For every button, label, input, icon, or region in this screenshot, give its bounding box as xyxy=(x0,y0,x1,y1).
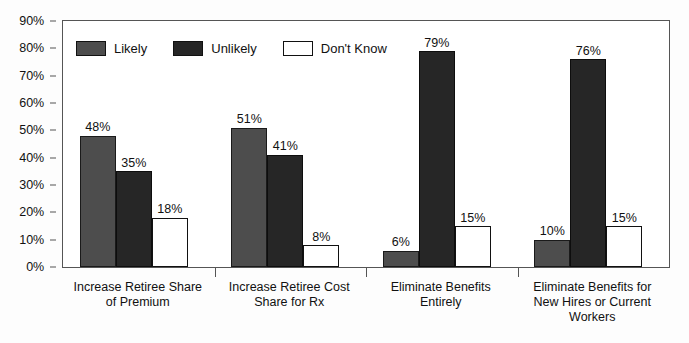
x-axis-category-label-line: Workers xyxy=(517,310,669,325)
y-axis-tick-label: 90% xyxy=(19,15,44,28)
x-axis-category-label: Eliminate BenefitsEntirely xyxy=(365,280,517,310)
y-axis-tick-mark xyxy=(50,103,56,104)
y-axis-tick-mark xyxy=(50,130,56,131)
legend-item-unlikely: Unlikely xyxy=(173,41,257,56)
bar: 48% xyxy=(80,136,116,267)
bar-value-label: 51% xyxy=(237,113,262,126)
y-axis: 0%10%20%30%40%50%60%70%80%90% xyxy=(0,20,56,268)
bar-value-label: 15% xyxy=(612,212,637,225)
x-axis-category-label-line: Eliminate Benefits for xyxy=(517,280,669,295)
legend-swatch-icon xyxy=(76,41,106,56)
bar: 41% xyxy=(267,155,303,267)
bars-layer: 48%35%18%51%41%8%6%79%15%10%76%15% xyxy=(63,21,669,267)
bar: 79% xyxy=(419,51,455,267)
y-axis-tick-label: 10% xyxy=(19,233,44,246)
x-axis-category-label-line: Entirely xyxy=(365,295,517,310)
y-axis-tick-mark xyxy=(50,75,56,76)
y-axis-tick-label: 40% xyxy=(19,151,44,164)
y-axis-tick-label: 30% xyxy=(19,179,44,192)
legend-swatch-icon xyxy=(283,41,313,56)
bar-value-label: 10% xyxy=(540,225,565,238)
bar-value-label: 76% xyxy=(576,45,601,58)
y-axis-tick-label: 0% xyxy=(26,261,44,274)
y-axis-tick-label: 60% xyxy=(19,97,44,110)
y-axis-tick-mark xyxy=(50,157,56,158)
bar: 10% xyxy=(534,240,570,267)
bar: 8% xyxy=(303,245,339,267)
bar-value-label: 48% xyxy=(85,121,110,134)
x-axis-category-label: Increase Retiree Shareof Premium xyxy=(62,280,214,310)
x-axis-separator-tick xyxy=(215,268,216,277)
bar: 76% xyxy=(570,59,606,267)
bar: 18% xyxy=(152,218,188,267)
chart-legend: LikelyUnlikelyDon't Know xyxy=(76,41,387,56)
legend-swatch-icon xyxy=(173,41,203,56)
x-axis-separator-tick xyxy=(518,268,519,277)
bar-value-label: 8% xyxy=(312,231,330,244)
bar-chart: 0%10%20%30%40%50%60%70%80%90% LikelyUnli… xyxy=(0,0,689,343)
bar-value-label: 15% xyxy=(460,212,485,225)
x-axis-category-label: Eliminate Benefits forNew Hires or Curre… xyxy=(517,280,669,325)
bar: 15% xyxy=(455,226,491,267)
bar: 51% xyxy=(231,128,267,267)
bar-value-label: 18% xyxy=(157,203,182,216)
y-axis-tick-mark xyxy=(50,21,56,22)
x-axis-category-label-line: Share for Rx xyxy=(214,295,366,310)
x-axis-category-label-line: of Premium xyxy=(62,295,214,310)
legend-item-don-t-know: Don't Know xyxy=(283,41,387,56)
bar: 6% xyxy=(383,251,419,267)
bar: 15% xyxy=(606,226,642,267)
bar: 35% xyxy=(116,171,152,267)
bar-value-label: 6% xyxy=(392,236,410,249)
bar-value-label: 41% xyxy=(273,140,298,153)
y-axis-tick-mark xyxy=(50,212,56,213)
y-axis-tick-label: 50% xyxy=(19,124,44,137)
y-axis-tick-mark xyxy=(50,267,56,268)
y-axis-tick-mark xyxy=(50,48,56,49)
x-axis-separator-tick xyxy=(366,268,367,277)
legend-label: Don't Know xyxy=(321,42,387,55)
y-axis-tick-label: 20% xyxy=(19,206,44,219)
y-axis-tick-mark xyxy=(50,239,56,240)
x-axis-category-label-line: Eliminate Benefits xyxy=(365,280,517,295)
x-axis-category-label-line: Increase Retiree Cost xyxy=(214,280,366,295)
bar-group: 6%79%15% xyxy=(366,21,518,267)
bar-group: 51%41%8% xyxy=(215,21,367,267)
bar-group: 10%76%15% xyxy=(518,21,670,267)
y-axis-tick-mark xyxy=(50,185,56,186)
y-axis-tick-label: 80% xyxy=(19,42,44,55)
bar-value-label: 35% xyxy=(121,157,146,170)
x-axis-category-label-line: Increase Retiree Share xyxy=(62,280,214,295)
x-axis-category-label-line: New Hires or Current xyxy=(517,295,669,310)
legend-label: Likely xyxy=(114,42,147,55)
legend-item-likely: Likely xyxy=(76,41,147,56)
legend-label: Unlikely xyxy=(211,42,257,55)
x-axis-labels: Increase Retiree Shareof PremiumIncrease… xyxy=(62,280,670,340)
y-axis-tick-label: 70% xyxy=(19,69,44,82)
bar-value-label: 79% xyxy=(424,37,449,50)
x-axis-category-label: Increase Retiree CostShare for Rx xyxy=(214,280,366,310)
bar-group: 48%35%18% xyxy=(63,21,215,267)
